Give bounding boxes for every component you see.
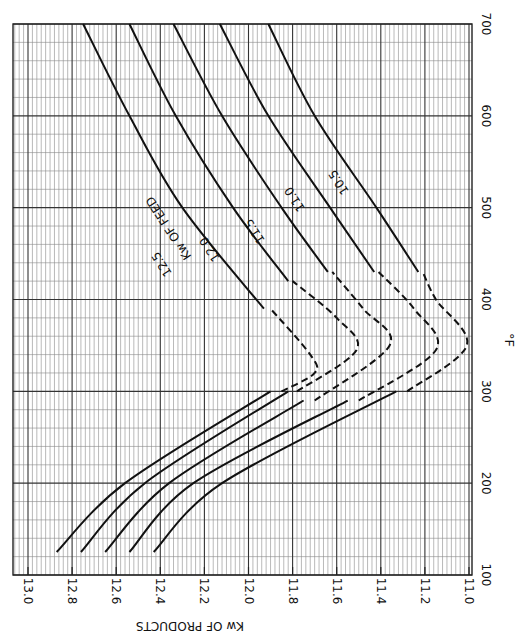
y-tick-label: 12.8 — [65, 578, 79, 605]
y-tick-label: 11.0 — [462, 578, 476, 605]
x-tick-label: 100 — [479, 564, 493, 587]
x-tick-label: 300 — [479, 380, 493, 403]
y-axis-label: Kw OF PRODUCTS — [136, 619, 244, 633]
kw-tick-labels: 13.012.812.612.412.212.011.811.611.411.2… — [21, 578, 476, 605]
y-tick-label: 12.4 — [153, 578, 167, 605]
x-tick-label: 600 — [479, 104, 493, 127]
curve-label: 10.5 — [325, 167, 351, 197]
chart: 100200300400500600700 13.012.812.612.412… — [0, 0, 519, 643]
temperature-tick-labels: 100200300400500600700 — [479, 13, 493, 587]
x-tick-label: 500 — [479, 196, 493, 219]
curve-solid-upper — [268, 24, 418, 272]
x-tick-label: 400 — [479, 288, 493, 311]
y-tick-label: 12.6 — [109, 578, 123, 605]
x-tick-label: 200 — [479, 472, 493, 495]
x-axis-label: °F — [502, 333, 517, 347]
curve-solid-lower — [129, 401, 347, 553]
y-tick-label: 13.0 — [21, 578, 35, 605]
y-tick-label: 11.8 — [286, 578, 300, 605]
curve-label: 11.0 — [281, 184, 307, 214]
y-tick-label: 12.0 — [242, 578, 256, 605]
y-tick-label: 11.4 — [374, 578, 388, 605]
y-tick-label: 12.2 — [197, 578, 211, 605]
y-tick-label: 11.2 — [418, 578, 432, 605]
y-tick-label: 11.6 — [330, 578, 344, 605]
curve-label: 12.0 — [196, 234, 222, 264]
curve-label: 12.5 — [148, 249, 174, 279]
x-tick-label: 700 — [479, 13, 493, 36]
curve-label: 11.5 — [241, 216, 267, 246]
curve-solid-lower — [57, 391, 271, 552]
